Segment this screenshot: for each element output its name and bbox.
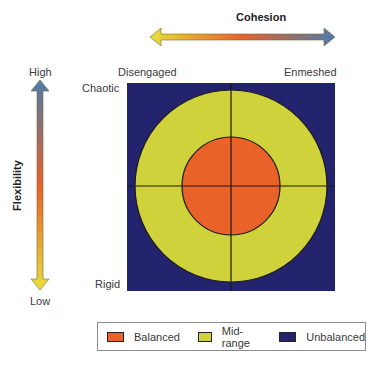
chaotic-label: Chaotic <box>82 83 119 94</box>
legend-label: Mid-range <box>222 325 261 349</box>
legend-item-balanced: Balanced <box>107 331 180 343</box>
enmeshed-label: Enmeshed <box>284 67 337 78</box>
rigid-label: Rigid <box>95 279 120 290</box>
flexibility-title: Flexibility <box>12 160 23 212</box>
low-label: Low <box>30 296 50 307</box>
legend-item-unbalanced: Unbalanced <box>279 331 365 343</box>
cohesion-title: Cohesion <box>236 12 286 23</box>
legend-item-midrange: Mid-range <box>198 325 261 349</box>
flexibility-arrow-icon <box>31 80 49 290</box>
high-label: High <box>29 67 52 78</box>
midrange-swatch-icon <box>198 332 212 342</box>
legend-label: Balanced <box>134 331 180 343</box>
circumplex-diagram <box>0 0 381 367</box>
disengaged-label: Disengaged <box>118 67 177 78</box>
cohesion-arrow-icon <box>150 28 335 46</box>
legend-label: Unbalanced <box>306 331 365 343</box>
unbalanced-swatch-icon <box>279 332 296 342</box>
legend: Balanced Mid-range Unbalanced <box>97 322 366 351</box>
balanced-swatch-icon <box>107 332 124 342</box>
